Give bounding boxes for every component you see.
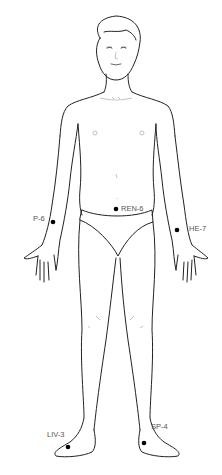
acupoint-ren6[interactable] bbox=[114, 207, 119, 212]
label-ren6: REN-6 bbox=[121, 205, 144, 213]
label-liv3: LIV-3 bbox=[47, 431, 65, 439]
label-p6: P-6 bbox=[33, 215, 45, 223]
label-sp4: SP-4 bbox=[151, 423, 168, 431]
acupoint-sp4[interactable] bbox=[142, 441, 147, 446]
label-he7: HE-7 bbox=[189, 225, 206, 233]
underwear-outline bbox=[80, 210, 153, 256]
body-figure bbox=[0, 0, 222, 475]
acupoint-he7[interactable] bbox=[175, 228, 180, 233]
acupoint-p6[interactable] bbox=[51, 220, 56, 225]
head-outline bbox=[97, 16, 141, 80]
acupoint-liv3[interactable] bbox=[66, 445, 71, 450]
